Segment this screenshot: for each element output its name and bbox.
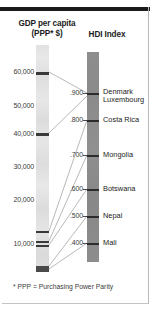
hdi-axis-title: HDI Index — [78, 30, 136, 40]
infographic-gdp-hdi: GDP per capita (PPP* $) HDI Index 60,000… — [0, 0, 160, 316]
country-label-luxembourg: Luxembourg — [103, 96, 144, 105]
gdp-marker-denmark — [36, 72, 49, 75]
gdp-marker-luxembourg — [36, 133, 49, 136]
gdp-tick-label-50000: 50,000 — [0, 102, 34, 109]
gdp-marker-mongolia — [36, 241, 49, 243]
hdi-tick-label-700: .700 — [62, 151, 83, 158]
right-border-rule — [148, 7, 149, 304]
gdp-axis-title-line2: (PPP* $) — [8, 29, 86, 39]
gdp-marker-costa-rica — [36, 231, 49, 233]
country-label-mongolia: Mongolia — [103, 151, 133, 160]
hdi-marker-700 — [87, 155, 99, 157]
top-divider-rule — [0, 7, 150, 11]
connector-luxembourg — [49, 96, 87, 133]
hdi-tick-label-900: .900 — [62, 89, 83, 96]
bottom-border-rule — [2, 303, 149, 304]
hdi-tick-label-500: .500 — [62, 212, 83, 219]
country-label-mali: Mali — [103, 239, 117, 248]
gdp-tick-label-20000: 20,000 — [0, 196, 34, 203]
gdp-tick-label-60000: 60,000 — [0, 68, 34, 75]
connector-lines — [0, 0, 160, 316]
country-label-costa-rica: Costa Rica — [103, 116, 139, 125]
connector-mongolia — [49, 155, 87, 241]
hdi-tick-label-800: .800 — [62, 116, 83, 123]
connector-mali — [49, 243, 87, 269]
footnote-ppp-definition: * PPP = Purchasing Power Parity — [13, 283, 113, 290]
hdi-tick-label-400: .400 — [62, 239, 83, 246]
hdi-marker-400 — [87, 243, 99, 245]
hdi-tick-label-600: .600 — [62, 185, 83, 192]
hdi-marker-500 — [87, 216, 99, 218]
gdp-tick-label-40000: 40,000 — [0, 130, 34, 137]
gdp-axis-title: GDP per capita (PPP* $) — [8, 19, 86, 39]
gdp-marker-nepal-mali — [36, 266, 49, 272]
hdi-marker-900 — [87, 93, 99, 95]
gdp-axis-title-line1: GDP per capita — [8, 19, 86, 29]
gdp-tick-label-30000: 30,000 — [0, 163, 34, 170]
country-label-botswana: Botswana — [103, 185, 135, 194]
gdp-tick-label-10000: 10,000 — [0, 240, 34, 247]
hdi-marker-600 — [87, 189, 99, 191]
country-label-nepal: Nepal — [103, 212, 122, 221]
hdi-scale-column — [87, 52, 99, 262]
gdp-marker-botswana — [36, 245, 49, 247]
hdi-marker-800 — [87, 120, 99, 122]
gdp-scale-column — [36, 45, 49, 272]
